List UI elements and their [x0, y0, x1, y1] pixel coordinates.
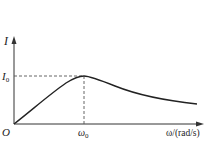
- x-axis-label: ω/(rad/s): [166, 128, 200, 139]
- resonance-curve: [14, 76, 197, 124]
- resonance-curve-diagram: I I0 O ω0 ω/(rad/s): [0, 0, 210, 145]
- x-axis-arrow-icon: [196, 122, 204, 127]
- omega0-label: ω0: [78, 127, 89, 140]
- origin-label: O: [2, 126, 10, 138]
- y-axis-label: I: [3, 34, 9, 48]
- y-axis-arrow-icon: [12, 36, 17, 44]
- i0-label: I0: [1, 70, 10, 84]
